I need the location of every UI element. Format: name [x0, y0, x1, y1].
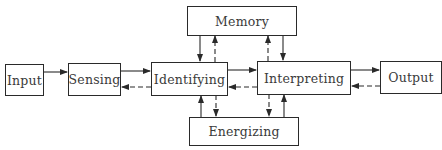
node-sensing-label: Sensing	[69, 72, 121, 87]
node-identifying: Identifying	[151, 62, 228, 96]
node-output-label: Output	[388, 70, 434, 85]
node-interpreting-label: Interpreting	[264, 71, 344, 86]
node-memory-label: Memory	[215, 14, 269, 29]
node-output: Output	[380, 61, 442, 94]
node-energizing-label: Energizing	[208, 124, 279, 139]
node-energizing: Energizing	[189, 117, 299, 146]
node-identifying-label: Identifying	[154, 72, 225, 87]
node-input-label: Input	[7, 73, 42, 88]
node-input: Input	[5, 64, 44, 96]
node-sensing: Sensing	[68, 63, 121, 96]
node-interpreting: Interpreting	[257, 61, 351, 95]
node-memory: Memory	[187, 6, 297, 36]
